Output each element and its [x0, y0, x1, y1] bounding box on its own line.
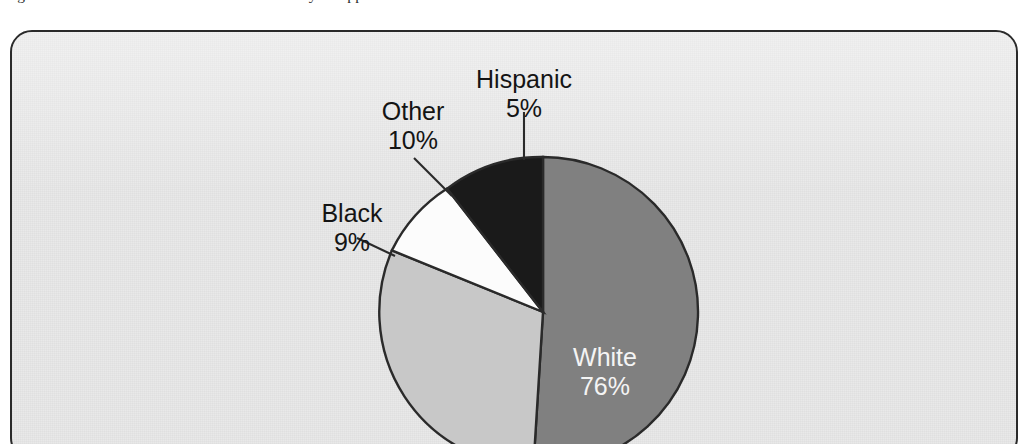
pie-chart: Hispanic 5% Other 10% Black 9% White 76% [0, 0, 1028, 444]
pie-label-hispanic-value: 5% [506, 94, 542, 122]
pie-slices [379, 157, 698, 444]
pie-slice-white[interactable] [533, 157, 698, 444]
scanned-page: Figure 3.2 Fatalities by Wrapped Deaths [0, 0, 1028, 444]
pie-chart-svg: Hispanic 5% Other 10% Black 9% White 76% [0, 0, 1028, 444]
pie-label-other-name: Other [382, 97, 445, 125]
pie-label-white-value: 76% [580, 372, 630, 400]
pie-label-other-value: 10% [388, 126, 438, 154]
pie-label-black-value: 9% [334, 228, 370, 256]
pie-label-hispanic-name: Hispanic [476, 65, 572, 93]
pie-label-black-name: Black [321, 199, 383, 227]
pie-label-white-name: White [573, 343, 637, 371]
leader-line-other [414, 158, 452, 196]
